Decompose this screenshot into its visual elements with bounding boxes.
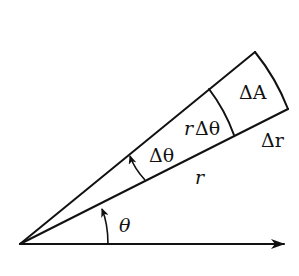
theta-arc-icon: [102, 209, 108, 244]
label-r-delta-theta: rΔθ: [184, 117, 220, 139]
label-delta-theta: Δθ: [149, 144, 174, 166]
upper-ray: [20, 52, 255, 244]
label-theta: θ: [119, 214, 131, 236]
polar-area-diagram: ΔA rΔθ Δθ Δr r θ: [0, 0, 299, 276]
delta-theta-arc-icon: [130, 156, 145, 180]
label-delta-a: ΔA: [239, 81, 267, 103]
label-r: r: [195, 166, 206, 188]
label-delta-r: Δr: [261, 129, 285, 151]
lower-ray: [20, 109, 288, 244]
